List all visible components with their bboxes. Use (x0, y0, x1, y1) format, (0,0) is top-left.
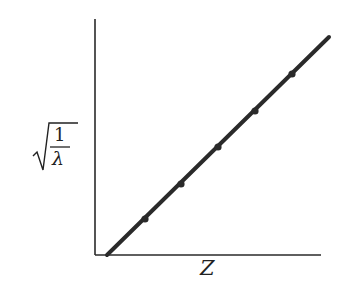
data-point (141, 215, 148, 222)
y-label-numerator: 1 (54, 124, 65, 145)
y-label-denominator: λ (52, 147, 64, 169)
data-point (251, 107, 258, 114)
data-point (177, 180, 184, 187)
x-axis-label: Z (200, 256, 215, 280)
data-point (214, 143, 221, 150)
data-point (288, 70, 295, 77)
y-axis-label: 1 λ (30, 120, 80, 174)
